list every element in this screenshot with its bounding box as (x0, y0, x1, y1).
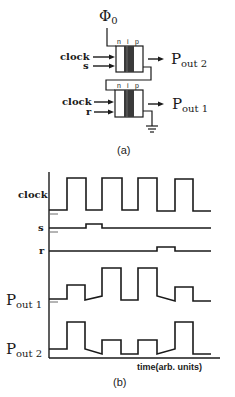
arrow-right-icon (93, 55, 115, 60)
s-signal-label: s (38, 222, 44, 233)
device-bottom: n i p clock r Pout 1 (62, 82, 208, 117)
input-r-label: r (86, 106, 92, 117)
caption-b: (b) (113, 376, 126, 388)
s-waveform (49, 224, 211, 228)
circuit-diagram: Φ0 n i p clock s Pout 2 (60, 7, 208, 156)
layer-p-label: p (135, 82, 139, 90)
layer-n-label: n (117, 38, 121, 45)
clock-signal-label: clock (18, 189, 49, 200)
pout2-signal-label: Pout 2 (6, 340, 42, 359)
arrow-right-icon (148, 57, 164, 62)
pout2-output-label: Pout 2 (171, 50, 207, 69)
arrow-right-icon (148, 102, 164, 107)
clock-waveform (49, 178, 211, 211)
pout1-signal-label: Pout 1 (6, 291, 42, 310)
caption-a: (a) (117, 144, 130, 156)
arrow-right-icon (94, 100, 114, 105)
arrow-right-icon (94, 110, 114, 115)
ground-icon (143, 111, 158, 132)
pout1-output-label: Pout 1 (172, 95, 208, 114)
layer-p-label: p (135, 38, 139, 46)
pout2-waveform (49, 322, 211, 354)
phi-zero-label: Φ0 (99, 7, 118, 26)
arrow-right-icon (93, 64, 115, 69)
pout1-waveform (49, 268, 211, 301)
layer-i-label: i (127, 82, 129, 89)
r-waveform (49, 247, 211, 251)
timing-chart: clock s r Pout 1 Pout 2 time(arb. units)… (6, 172, 220, 388)
figure-canvas: Φ0 n i p clock s Pout 2 (0, 0, 235, 397)
device-bottom-intrinsic-layer (124, 90, 134, 117)
phi-wire (107, 28, 116, 46)
r-signal-label: r (39, 245, 45, 256)
layer-n-label: n (117, 82, 121, 89)
x-axis-label: time(arb. units) (137, 362, 202, 372)
device-top-intrinsic-layer (124, 46, 134, 72)
device-top: n i p clock s Pout 2 (60, 38, 207, 72)
input-s-label: s (83, 60, 89, 71)
layer-i-label: i (127, 38, 129, 45)
